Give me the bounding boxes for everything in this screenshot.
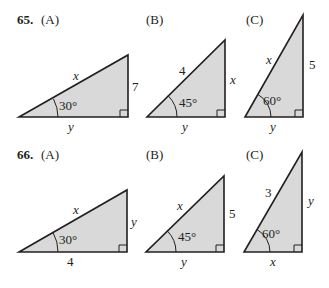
triangle-exercises: 65. (A) (B) (C) x 7 30° y 4 x 45° y — [0, 0, 329, 288]
opposite-label: 7 — [132, 79, 139, 94]
angle-label: 45° — [179, 95, 197, 110]
part-label: (B) — [146, 147, 163, 162]
adjacent-label: y — [179, 254, 187, 269]
opposite-label: 5 — [309, 57, 316, 72]
adjacent-label: 4 — [67, 254, 74, 269]
angle-label: 30° — [59, 98, 77, 113]
hypotenuse-label: 3 — [265, 185, 272, 200]
hypotenuse-label: x — [72, 202, 79, 217]
angle-label: 60° — [263, 93, 281, 108]
part-label: (A) — [41, 147, 59, 162]
angle-label: 45° — [178, 229, 196, 244]
angle-label: 60° — [262, 226, 280, 241]
part-label: (A) — [41, 12, 59, 27]
opposite-label: y — [129, 214, 137, 229]
problem-number: 65. — [17, 12, 33, 27]
problem-number: 66. — [17, 147, 33, 162]
hypotenuse-label: x — [176, 198, 183, 213]
triangle-65c: x 5 60° y — [245, 15, 316, 134]
adjacent-label: y — [268, 119, 276, 134]
triangle-65b: 4 x 45° y — [147, 40, 236, 134]
part-label: (C) — [246, 12, 263, 27]
triangle-66b: x 5 45° y — [146, 176, 236, 269]
opposite-label: 5 — [229, 206, 236, 221]
triangle-66c: 3 y 60° x — [244, 152, 314, 269]
adjacent-label: x — [269, 254, 276, 269]
triangle-65a: x 7 30° y — [19, 55, 139, 134]
part-label: (C) — [246, 147, 263, 162]
triangle-66a: x y 30° 4 — [19, 190, 137, 269]
problem-65: 65. (A) (B) (C) x 7 30° y 4 x 45° y — [17, 12, 316, 134]
problem-66: 66. (A) (B) (C) x y 30° 4 x 5 45° y — [17, 147, 314, 269]
angle-label: 30° — [59, 232, 77, 247]
hypotenuse-label: x — [72, 68, 79, 83]
adjacent-label: y — [180, 119, 188, 134]
part-label: (B) — [146, 12, 163, 27]
adjacent-label: y — [66, 119, 74, 134]
hypotenuse-label: x — [265, 52, 272, 67]
opposite-label: x — [229, 72, 236, 87]
opposite-label: y — [306, 193, 314, 208]
hypotenuse-label: 4 — [179, 63, 186, 78]
